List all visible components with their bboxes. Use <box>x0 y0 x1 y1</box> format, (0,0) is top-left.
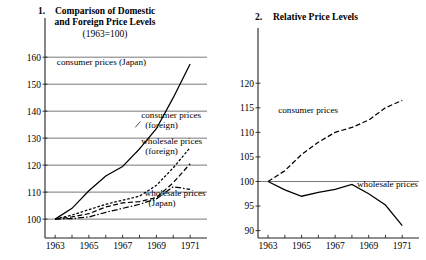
y-tick-label-95: 95 <box>245 201 255 211</box>
series-4-label-line2: (Japan) <box>149 198 176 208</box>
y-tick-label-115: 115 <box>240 103 254 113</box>
chart-1-title-line2: and Foreign Price Levels <box>55 17 156 27</box>
series-1-label: consumer prices (Japan) <box>57 57 146 67</box>
series-2-label: wholesale prices <box>357 179 418 189</box>
y-tick-label-160: 160 <box>27 53 42 63</box>
leader-2 <box>136 147 140 153</box>
x-tick-label-1971: 1971 <box>393 241 412 251</box>
figure-root: 1. Comparison of Domestic and Foreign Pr… <box>0 0 426 260</box>
y-tick-label-150: 150 <box>27 80 42 90</box>
y-tick-label-140: 140 <box>27 107 42 117</box>
y-tick-label-110: 110 <box>240 128 254 138</box>
chart-1-subtitle: (1963=100) <box>83 29 128 40</box>
series-2-label: consumer prices <box>141 110 201 120</box>
x-tick-label-1969: 1969 <box>359 241 378 251</box>
x-tick-label-1965: 1965 <box>79 241 98 251</box>
chart-2-x-tick-labels: 19631965196719691971 <box>259 241 412 251</box>
chart-1-number: 1. <box>38 6 45 16</box>
chart-2-svg: 2. Relative Price Levels 909510010511011… <box>213 0 426 260</box>
chart-panel-1: 1. Comparison of Domestic and Foreign Pr… <box>0 0 213 260</box>
series-2-line <box>55 148 190 220</box>
y-tick-label-130: 130 <box>27 134 42 144</box>
y-tick-label-110: 110 <box>27 188 41 198</box>
chart-1-title-line1: Comparison of Domestic <box>55 6 155 16</box>
series-4-label: wholesale prices <box>145 188 206 198</box>
x-tick-label-1963: 1963 <box>259 241 278 251</box>
series-3-label-line2: (foreign) <box>145 146 178 156</box>
y-tick-label-100: 100 <box>240 177 255 187</box>
x-tick-label-1969: 1969 <box>147 241 166 251</box>
x-tick-label-1967: 1967 <box>113 241 132 251</box>
chart-2-number: 2. <box>255 12 262 22</box>
x-tick-label-1971: 1971 <box>181 241 200 251</box>
chart-2-y-tick-labels: 9095100105110115120 <box>240 79 255 236</box>
series-3-label: wholesale prices <box>141 136 202 146</box>
chart-2-annotations: consumer priceswholesale prices <box>278 105 418 190</box>
y-tick-label-120: 120 <box>27 161 42 171</box>
chart-2-axes <box>258 28 419 238</box>
y-tick-label-105: 105 <box>240 152 255 162</box>
series-2-label-line2: (foreign) <box>145 120 178 130</box>
chart-1-x-tick-labels: 19631965196719691971 <box>46 241 200 251</box>
series-1-label: consumer prices <box>278 105 338 115</box>
y-tick-label-100: 100 <box>27 215 42 225</box>
chart-1-axes <box>45 18 207 238</box>
chart-1-annotations: consumer prices (Japan)consumer prices(f… <box>57 57 206 208</box>
chart-1-leader-lines <box>135 121 140 153</box>
y-tick-label-120: 120 <box>240 79 255 89</box>
x-tick-label-1963: 1963 <box>46 241 65 251</box>
leader-1 <box>135 121 140 127</box>
y-tick-label-90: 90 <box>245 226 255 236</box>
chart-1-svg: 1. Comparison of Domestic and Foreign Pr… <box>0 0 213 260</box>
chart-2-series-group <box>268 100 402 225</box>
x-tick-label-1967: 1967 <box>326 241 345 251</box>
x-tick-label-1965: 1965 <box>292 241 311 251</box>
chart-2-title: Relative Price Levels <box>273 12 358 22</box>
chart-panel-2: 2. Relative Price Levels 909510010511011… <box>213 0 426 260</box>
chart-1-y-tick-labels: 100110120130140150160 <box>27 53 42 225</box>
